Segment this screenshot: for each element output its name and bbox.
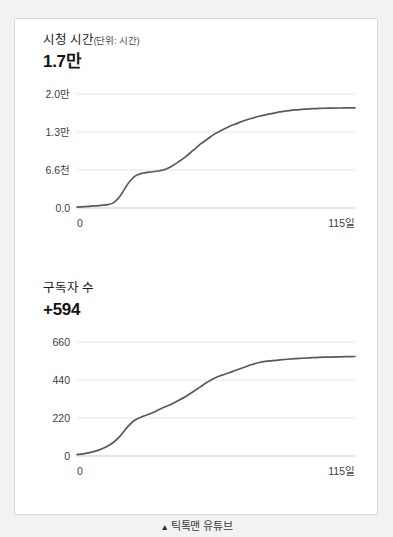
watch-time-value: 1.7만: [43, 53, 377, 72]
watch-time-chart: 2.0만 1.3만 6.6천 0.0 0 115일: [15, 80, 379, 230]
subscribers-title-text: 구독자 수: [43, 281, 93, 295]
subscribers-title: 구독자 수: [43, 281, 377, 296]
subscribers-chart-wrap: 660 440 220 0 0 115일: [15, 328, 377, 478]
watch-time-ytick-3: 0.0: [55, 202, 70, 214]
analytics-card: 시청 시간(단위: 시간) 1.7만 2.0만 1.3만 6.6천: [14, 18, 378, 515]
watch-time-ytick-0: 2.0만: [45, 88, 70, 100]
watch-time-unit: (단위: 시간): [93, 35, 139, 46]
subscribers-value: +594: [43, 301, 377, 320]
analytics-card-page: 시청 시간(단위: 시간) 1.7만 2.0만 1.3만 6.6천: [0, 0, 393, 537]
subscribers-ytick-1: 440: [52, 374, 70, 386]
footer-channel-label: 틱톡맨 유튜브: [171, 520, 233, 532]
watch-time-xtick-end: 115일: [328, 217, 355, 229]
subscribers-chart: 660 440 220 0 0 115일: [15, 328, 379, 478]
watch-time-gridlines: [77, 94, 355, 170]
watch-time-ytick-1: 1.3만: [45, 126, 70, 138]
subscribers-xtick-start: 0: [77, 465, 83, 477]
subscribers-series: [77, 356, 355, 454]
subscribers-xtick-end: 115일: [328, 465, 355, 477]
watch-time-series: [77, 107, 355, 206]
watch-time-xtick-labels: 0 115일: [77, 217, 355, 229]
watch-time-chart-wrap: 2.0만 1.3만 6.6천 0.0 0 115일: [15, 80, 377, 230]
watch-time-title: 시청 시간(단위: 시간): [43, 33, 377, 48]
watch-time-title-text: 시청 시간: [43, 33, 93, 47]
subscribers-gridlines: [77, 342, 355, 418]
subscribers-panel: 구독자 수 +594 660 440 220 0: [15, 281, 377, 478]
watch-time-ytick-labels: 2.0만 1.3만 6.6천 0.0: [45, 88, 70, 214]
watch-time-ytick-2: 6.6천: [45, 164, 70, 176]
subscribers-xtick-labels: 0 115일: [77, 465, 355, 477]
footer-caption: ▲틱톡맨 유튜브: [0, 517, 393, 533]
subscribers-header: 구독자 수 +594: [15, 281, 377, 320]
subscribers-ytick-0: 660: [52, 336, 70, 348]
subscribers-ytick-labels: 660 440 220 0: [52, 336, 70, 462]
watch-time-header: 시청 시간(단위: 시간) 1.7만: [15, 33, 377, 72]
subscribers-ytick-3: 0: [64, 450, 70, 462]
watch-time-panel: 시청 시간(단위: 시간) 1.7만 2.0만 1.3만 6.6천: [15, 33, 377, 230]
watch-time-xtick-start: 0: [77, 217, 83, 229]
triangle-marker-icon: ▲: [161, 522, 169, 532]
subscribers-ytick-2: 220: [52, 412, 70, 424]
